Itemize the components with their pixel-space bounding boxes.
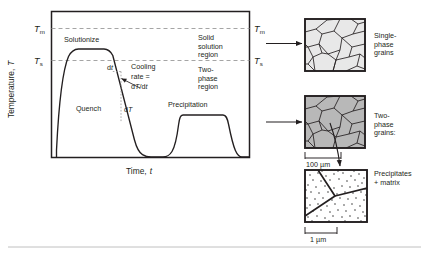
cooling-rate-line2: rate =	[131, 72, 150, 81]
scale-bar-1-micrometer: 1µm	[305, 227, 337, 244]
solvus-temp-label-left: Ts	[34, 56, 43, 67]
x-axis-label-text: Time,	[126, 166, 147, 176]
x-axis-label-variable: t	[150, 166, 153, 176]
precipitation-label: Precipitation	[168, 100, 208, 109]
figure-root: Temperature,T Time,t Tm Ts Tm Ts Solutio…	[0, 0, 429, 253]
single-phase-caption-line3: grains	[374, 48, 394, 57]
y-axis-label-text: Temperature,	[6, 69, 16, 118]
plot-frame	[52, 12, 250, 158]
dt-label-var: t	[111, 63, 114, 72]
x-axis-label: Time,t	[126, 166, 153, 176]
scale-bar-100-label: 100µm	[306, 160, 330, 169]
two-phase-caption-line3: grains:	[374, 128, 396, 137]
panel-two-phase-grains: 100µm Two- phase grains:	[305, 96, 396, 169]
scale-bar-100-micrometer: 100µm	[305, 152, 341, 169]
scale-bar-100-value: 100	[306, 160, 318, 169]
scale-bar-100-unit: µm	[320, 160, 330, 169]
scale-bar-1-unit: µm	[316, 235, 326, 244]
solutionize-label: Solutionize	[64, 35, 99, 44]
dT-label: dT	[124, 105, 133, 114]
solid-solution-region-line3: region	[198, 50, 218, 59]
cooling-rate-line1: Cooling	[131, 62, 155, 71]
solvus-temp-label-right: Ts	[254, 56, 263, 67]
melting-temp-label-left: Tm	[34, 24, 45, 35]
scale-bar-1-label: 1µm	[310, 235, 326, 244]
dT-label-var: T	[128, 105, 133, 114]
solvus-temp-subscript-left: s	[40, 60, 43, 67]
solvus-temp-subscript-right: s	[260, 60, 263, 67]
quench-label: Quench	[76, 104, 101, 113]
y-axis-label-variable: T	[6, 60, 16, 66]
panel-precipitates-matrix: 1µm Precipitates + matrix	[305, 169, 412, 244]
y-axis-label: Temperature,T	[6, 60, 16, 118]
scale-bar-1-value: 1	[310, 235, 314, 244]
two-phase-region-line3: region	[198, 82, 218, 91]
cooling-rate-line3: dT/dt	[131, 82, 148, 91]
melting-temp-subscript-left: m	[40, 28, 45, 35]
heat-treatment-figure: Temperature,T Time,t Tm Ts Tm Ts Solutio…	[0, 0, 429, 253]
cooling-rate-t: t	[145, 82, 148, 91]
dt-label: dt	[107, 63, 114, 72]
melting-temp-label-right: Tm	[254, 24, 265, 35]
precipitates-caption-line2: + matrix	[374, 178, 400, 187]
melting-temp-subscript-right: m	[260, 28, 265, 35]
panel-single-phase-grains: Single- phase grains	[305, 19, 397, 71]
